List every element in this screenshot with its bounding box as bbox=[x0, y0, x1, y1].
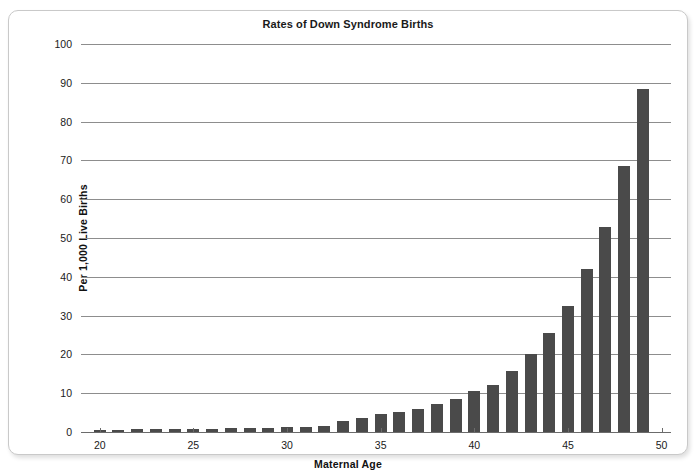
x-tick-mark bbox=[193, 428, 194, 433]
bar bbox=[599, 227, 611, 432]
y-tick-label: 0 bbox=[66, 426, 72, 438]
bar bbox=[618, 166, 630, 432]
bar bbox=[206, 429, 218, 432]
x-axis-baseline bbox=[81, 432, 671, 433]
x-tick-label: 20 bbox=[94, 439, 106, 451]
y-tick-label: 40 bbox=[60, 271, 72, 283]
y-tick-label: 80 bbox=[60, 116, 72, 128]
chart-card: Rates of Down Syndrome Births Per 1,000 … bbox=[8, 10, 688, 455]
bar bbox=[412, 409, 424, 432]
bar bbox=[262, 428, 274, 432]
x-tick-mark bbox=[287, 428, 288, 433]
y-tick-label: 60 bbox=[60, 193, 72, 205]
y-tick-label: 10 bbox=[60, 387, 72, 399]
bar bbox=[318, 426, 330, 432]
bar bbox=[169, 429, 181, 432]
bar bbox=[393, 412, 405, 432]
y-tick-label: 90 bbox=[60, 77, 72, 89]
gridline bbox=[81, 238, 671, 239]
bar bbox=[431, 404, 443, 432]
bar bbox=[112, 430, 124, 432]
bar bbox=[487, 385, 499, 432]
x-tick-mark bbox=[381, 428, 382, 433]
x-tick-mark bbox=[474, 428, 475, 433]
bar bbox=[225, 428, 237, 432]
gridline bbox=[81, 160, 671, 161]
x-tick-mark bbox=[100, 428, 101, 433]
y-tick-label: 100 bbox=[54, 38, 72, 50]
y-tick-label: 70 bbox=[60, 154, 72, 166]
gridline bbox=[81, 44, 671, 45]
bar bbox=[244, 428, 256, 432]
gridline bbox=[81, 83, 671, 84]
bar bbox=[525, 354, 537, 432]
bar bbox=[637, 89, 649, 432]
plot-area: 010203040506070809010020253035404550 bbox=[81, 44, 671, 432]
bar bbox=[131, 429, 143, 432]
gridline bbox=[81, 122, 671, 123]
bar bbox=[581, 269, 593, 432]
bar bbox=[337, 421, 349, 432]
bar bbox=[468, 391, 480, 432]
x-tick-label: 40 bbox=[468, 439, 480, 451]
bar bbox=[562, 306, 574, 432]
bar bbox=[506, 371, 518, 432]
bar bbox=[543, 333, 555, 432]
x-tick-label: 35 bbox=[375, 439, 387, 451]
bar bbox=[450, 399, 462, 432]
x-tick-label: 30 bbox=[281, 439, 293, 451]
bar bbox=[300, 427, 312, 432]
y-tick-label: 20 bbox=[60, 348, 72, 360]
bar bbox=[150, 429, 162, 432]
y-tick-label: 30 bbox=[60, 310, 72, 322]
x-tick-mark bbox=[568, 428, 569, 433]
y-tick-label: 50 bbox=[60, 232, 72, 244]
x-tick-mark bbox=[662, 428, 663, 433]
bar bbox=[356, 418, 368, 432]
x-tick-label: 25 bbox=[188, 439, 200, 451]
gridline bbox=[81, 199, 671, 200]
x-axis-title: Maternal Age bbox=[9, 458, 687, 470]
chart-title: Rates of Down Syndrome Births bbox=[9, 18, 687, 30]
x-tick-label: 45 bbox=[562, 439, 574, 451]
x-tick-label: 50 bbox=[656, 439, 668, 451]
